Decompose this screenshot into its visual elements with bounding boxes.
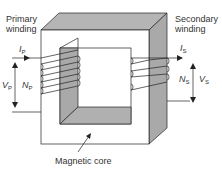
- ns-symbol: NS: [179, 74, 190, 85]
- secondary-label-line1: Secondary: [175, 14, 219, 24]
- secondary-label-line2: winding: [174, 24, 206, 34]
- primary-label-line1: Primary: [6, 14, 37, 24]
- secondary-voltage-arrow-icon: [190, 63, 196, 103]
- is-symbol: IS: [180, 43, 187, 54]
- primary-current-arrow-icon: [24, 55, 30, 61]
- primary-voltage-arrow-icon: [12, 62, 18, 108]
- magnetic-core-label: Magnetic core: [55, 156, 112, 166]
- np-symbol: NP: [22, 80, 33, 91]
- primary-label-line2: winding: [5, 24, 37, 34]
- secondary-current-arrow-icon: [177, 55, 183, 61]
- core-top-face: [41, 13, 167, 30]
- core-right-face: [149, 13, 167, 144]
- vs-symbol: VS: [199, 74, 209, 85]
- ip-symbol: IP: [19, 44, 26, 55]
- transformer-diagram: Primary winding Secondary winding IP VP …: [0, 0, 222, 186]
- vp-symbol: VP: [2, 80, 12, 91]
